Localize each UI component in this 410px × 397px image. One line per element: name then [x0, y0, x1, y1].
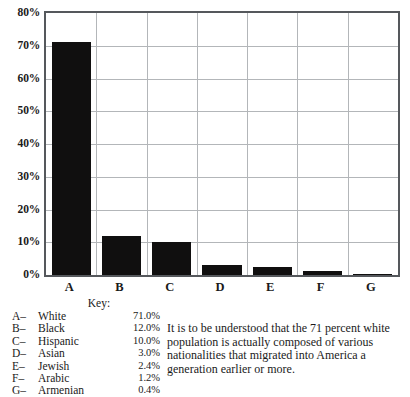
x-axis-tick-label: B [94, 279, 144, 295]
bar-cell [147, 13, 197, 275]
key-row-name: Asian [38, 347, 65, 359]
key-row-letter: F– [12, 372, 36, 384]
key-row-letter: G– [12, 384, 36, 396]
bar-d [202, 265, 241, 275]
y-axis-tick-label: 60% [0, 73, 40, 85]
y-axis-tick-labels: 0%10%20%30%40%50%60%70%80% [0, 11, 40, 277]
key-row-name: White [38, 310, 66, 322]
y-axis-tick-label: 40% [0, 138, 40, 150]
key-row: E–Jewish2.4% [0, 360, 165, 372]
key-row-name: Armenian [38, 384, 84, 396]
x-axis-tick-label: C [145, 279, 195, 295]
bar-cell [348, 13, 398, 275]
key-row-letter: B– [12, 322, 36, 334]
bar-chart-figure: 0%10%20%30%40%50%60%70%80% ABCDEFG [0, 0, 410, 297]
chart-key: Key: A–White71.0%B–Black12.0%C–Hispanic1… [0, 297, 165, 397]
bar-cell [46, 13, 96, 275]
key-row-letter: A– [12, 310, 36, 322]
bar-c [152, 242, 191, 275]
key-row: C–Hispanic10.0% [0, 335, 165, 347]
x-axis-tick-label: A [44, 279, 94, 295]
plot-area [44, 11, 400, 277]
key-row: F–Arabic1.2% [0, 372, 165, 384]
key-row-value: 71.0% [100, 310, 160, 322]
key-row-value: 0.4% [100, 384, 160, 396]
key-row: D–Asian3.0% [0, 347, 165, 359]
key-row-name: Jewish [38, 360, 69, 372]
key-row-value: 10.0% [100, 335, 160, 347]
bar-b [102, 236, 141, 275]
bar-cell [96, 13, 146, 275]
key-row-letter: E– [12, 360, 36, 372]
y-axis-tick-label: 30% [0, 171, 40, 183]
bar-g [353, 274, 392, 276]
key-row-value: 2.4% [100, 360, 160, 372]
y-axis-tick-label: 10% [0, 237, 40, 249]
y-axis-tick-label: 80% [0, 7, 40, 19]
key-rows: A–White71.0%B–Black12.0%C–Hispanic10.0%D… [0, 310, 165, 397]
bar-cell [297, 13, 347, 275]
key-row-value: 1.2% [100, 372, 160, 384]
bar-a [52, 42, 91, 275]
x-axis-tick-label: E [245, 279, 295, 295]
explanatory-note: It is to be understood that the 71 perce… [167, 322, 410, 376]
key-row: G–Armenian0.4% [0, 384, 165, 396]
bar-f [303, 271, 342, 275]
x-axis-tick-label: G [346, 279, 396, 295]
key-row-letter: D– [12, 347, 36, 359]
key-row-name: Black [38, 322, 65, 334]
bar-e [253, 267, 292, 275]
x-axis-tick-labels: ABCDEFG [44, 279, 400, 297]
y-axis-tick-label: 70% [0, 40, 40, 52]
key-row-letter: C– [12, 335, 36, 347]
key-row-value: 3.0% [100, 347, 160, 359]
y-axis-tick-label: 0% [0, 269, 40, 281]
y-axis-tick-label: 50% [0, 106, 40, 118]
bar-cell [247, 13, 297, 275]
bar-cell [197, 13, 247, 275]
key-row: B–Black12.0% [0, 322, 165, 334]
y-axis-tick-label: 20% [0, 204, 40, 216]
key-row-name: Hispanic [38, 335, 79, 347]
key-row-value: 12.0% [100, 322, 160, 334]
key-row-name: Arabic [38, 372, 69, 384]
key-row: A–White71.0% [0, 310, 165, 322]
plot-inner [46, 13, 398, 275]
x-axis-tick-label: F [295, 279, 345, 295]
x-axis-tick-label: D [195, 279, 245, 295]
key-title: Key: [38, 297, 160, 309]
